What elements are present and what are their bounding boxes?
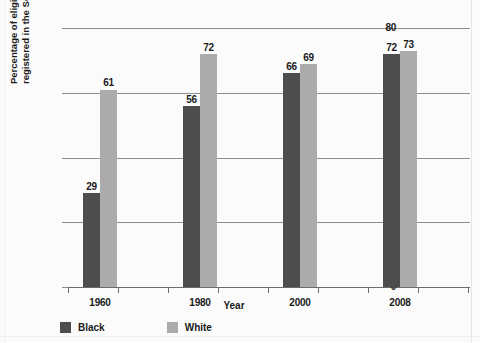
bar-white-2008 <box>400 51 417 287</box>
bar-white-2000 <box>300 64 317 287</box>
y-axis-title-line2: registered in the South <box>20 0 32 84</box>
y-tick-mark-20 <box>62 222 68 223</box>
bar-value-black-1960: 29 <box>79 181 104 192</box>
bar-chart: Percentage of eligible voters registered… <box>0 0 480 343</box>
x-tick-mark-8 <box>468 288 469 293</box>
x-tick-mark-6 <box>368 288 369 293</box>
legend-label-white: White <box>185 322 212 333</box>
bar-value-white-1980: 72 <box>196 42 221 53</box>
bar-white-1980 <box>200 54 217 287</box>
legend-label-black: Black <box>78 322 105 333</box>
y-tick-label-80: 80 <box>370 22 396 33</box>
x-tick-label-2000: 2000 <box>277 297 323 308</box>
x-tick-label-1960: 1960 <box>77 297 123 308</box>
gridline-80 <box>68 28 470 29</box>
y-tick-mark-60 <box>62 93 68 94</box>
y-tick-mark-40 <box>62 158 68 159</box>
page-edge-right <box>471 0 472 343</box>
x-tick-mark-4 <box>268 288 269 293</box>
x-tick-mark-1 <box>118 288 119 293</box>
x-axis-title: Year <box>204 300 264 311</box>
legend-entry-black: Black <box>60 322 105 333</box>
x-tick-mark-0 <box>68 288 69 293</box>
legend-swatch-white-icon <box>167 322 178 333</box>
bar-value-white-2000: 69 <box>296 52 321 63</box>
x-tick-mark-7 <box>418 288 419 293</box>
x-tick-label-2008: 2008 <box>377 297 423 308</box>
x-tick-mark-3 <box>218 288 219 293</box>
page-edge-left <box>4 0 5 343</box>
legend-entry-white: White <box>167 322 212 333</box>
bar-black-2008 <box>383 54 400 287</box>
bar-black-1960 <box>83 193 100 287</box>
y-tick-mark-80 <box>62 28 68 29</box>
bar-value-black-1980: 56 <box>179 94 204 105</box>
legend: Black White <box>60 322 212 333</box>
x-tick-mark-5 <box>318 288 319 293</box>
y-axis-title-line1: Percentage of eligible voters <box>8 0 19 84</box>
x-tick-mark-2 <box>168 288 169 293</box>
y-axis-title: Percentage of eligible voters registered… <box>8 0 32 84</box>
bar-value-white-2008: 73 <box>396 39 421 50</box>
bar-black-1980 <box>183 106 200 287</box>
bar-black-2000 <box>283 73 300 287</box>
page-edge-bottom <box>0 336 480 337</box>
x-axis-line <box>68 287 470 288</box>
plot-area: 80 60 40 20 0 29 61 1960 56 72 1980 66 6… <box>68 28 470 287</box>
legend-swatch-black-icon <box>60 322 71 333</box>
bar-value-white-1960: 61 <box>96 77 121 88</box>
